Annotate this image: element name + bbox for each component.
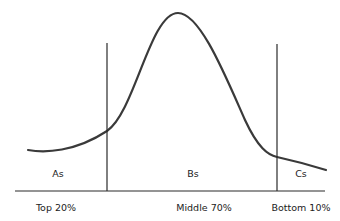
bell-curve — [28, 13, 326, 170]
segment-label-bottom: Bottom 10% — [272, 202, 331, 213]
grade-label-cs: Cs — [295, 168, 307, 179]
segment-label-middle: Middle 70% — [176, 202, 232, 213]
segment-label-top: Top 20% — [35, 202, 76, 213]
grade-label-bs: Bs — [187, 168, 199, 179]
grade-label-as: As — [52, 168, 63, 179]
distribution-diagram: As Bs Cs Top 20% Middle 70% Bottom 10% — [0, 0, 340, 221]
